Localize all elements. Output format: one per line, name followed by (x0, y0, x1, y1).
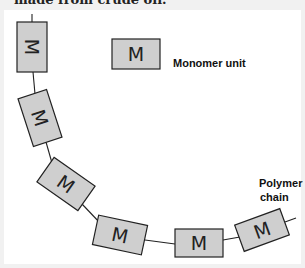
polymer-label-line2: chain (260, 191, 289, 203)
monomer-letter: M (191, 232, 207, 254)
bond-5-6 (223, 237, 240, 240)
chain-bonds (32, 14, 296, 244)
monomer-unit-4: M (92, 215, 147, 255)
legend: M Monomer unit (112, 39, 246, 69)
bond-4-5 (145, 240, 175, 244)
monomer-unit-6: M (235, 209, 290, 252)
monomer-unit-2: M (18, 90, 62, 147)
bond-2-3 (46, 142, 52, 163)
polymer-label-line1: Polymer (259, 177, 303, 189)
polymer-chain-label: Polymer chain (259, 177, 303, 203)
polymer-diagram: M M M M M M M Monomer uni (0, 0, 305, 268)
legend-monomer-letter: M (128, 43, 144, 65)
legend-label: Monomer unit (173, 57, 246, 69)
bond-1-2 (33, 72, 35, 94)
diagram-stage: made from crude oil. M M M (0, 0, 305, 268)
monomer-unit-5: M (175, 229, 223, 257)
monomer-unit-3: M (37, 157, 95, 210)
monomer-unit-1: M (17, 22, 47, 72)
bond-end (285, 218, 296, 222)
monomer-letter: M (21, 39, 43, 55)
